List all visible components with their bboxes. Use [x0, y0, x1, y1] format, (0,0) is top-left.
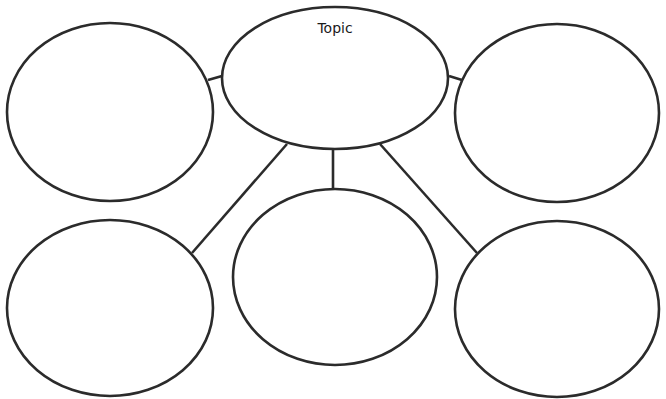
bubble-top-left [7, 23, 213, 201]
bubble-bottom-right [455, 221, 659, 397]
bubble-map [0, 0, 666, 399]
bubble-bottom-left [7, 220, 213, 396]
connector-top-right [449, 76, 462, 80]
bubble-top-right [455, 24, 659, 202]
bubble-bottom-middle [233, 189, 437, 365]
topic-label: Topic [285, 20, 385, 36]
connector-top-left [208, 76, 222, 80]
